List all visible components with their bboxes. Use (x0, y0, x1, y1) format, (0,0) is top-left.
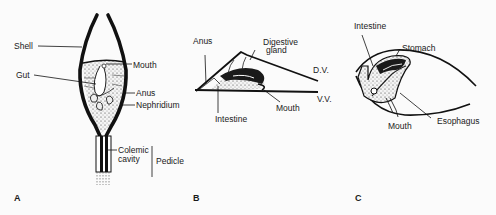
panel-b-ventral-valve (195, 90, 318, 92)
label-nephridium: Nephridium (136, 100, 179, 110)
panel-a-pedicle (96, 136, 111, 172)
label-dv: D.V. (313, 65, 329, 75)
label-anus-b: Anus (193, 36, 212, 46)
label-gland: gland (266, 45, 287, 55)
label-mouth-c: Mouth (388, 121, 412, 131)
diagram-canvas (0, 0, 496, 215)
label-gut: Gut (16, 70, 30, 80)
label-stomach: Stomach (402, 43, 436, 53)
label-mouth-b: Mouth (276, 103, 300, 113)
label-cavity: cavity (118, 154, 140, 164)
panel-letter-b: B (193, 193, 200, 203)
label-mouth: Mouth (133, 60, 157, 70)
label-shell: Shell (14, 41, 33, 51)
panel-letter-c: C (355, 193, 362, 203)
label-intestine-c: Intestine (354, 21, 386, 31)
label-vv: V.V. (317, 94, 332, 104)
label-intestine-b: Intestine (215, 114, 247, 124)
label-esophagus: Esophagus (437, 116, 480, 126)
panel-letter-a: A (14, 193, 21, 203)
label-anus: Anus (136, 88, 155, 98)
label-pedicle: Pedicle (156, 156, 184, 166)
